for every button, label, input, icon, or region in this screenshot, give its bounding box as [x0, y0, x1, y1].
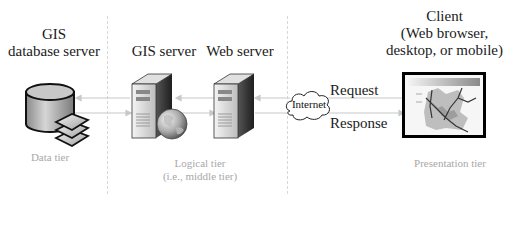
server-globe-icon — [128, 70, 188, 142]
logical-tier-label: Logical tier (i.e., middle tier) — [140, 157, 260, 183]
presentation-tier-label: Presentation tier — [400, 157, 500, 170]
internet-label: Internet — [284, 98, 334, 111]
response-label: Response — [330, 115, 400, 132]
request-label: Request — [330, 82, 390, 99]
database-icon — [20, 80, 90, 150]
data-tier-label: Data tier — [0, 151, 100, 164]
server-icon — [210, 70, 260, 142]
map-screen-icon — [402, 72, 486, 138]
